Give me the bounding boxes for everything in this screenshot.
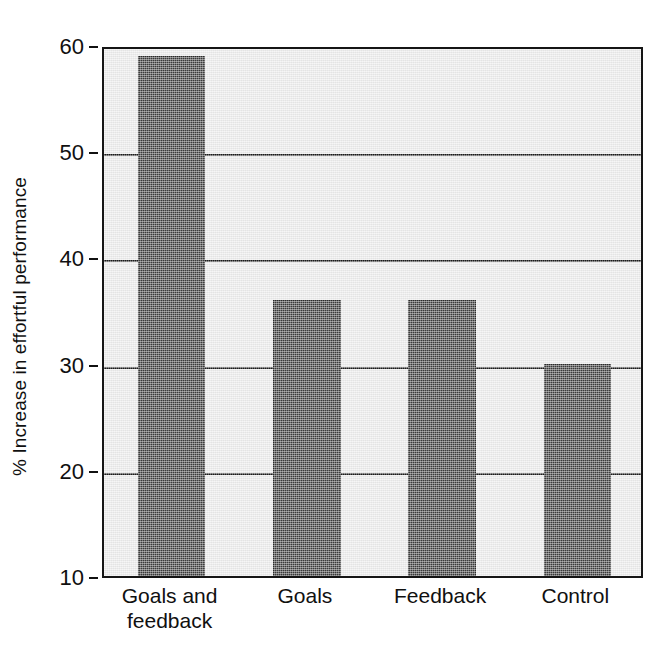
y-tick-mark-10	[89, 577, 98, 579]
bar-goals[interactable]	[273, 300, 341, 576]
y-tick-mark-20	[89, 471, 98, 473]
plot-area	[102, 47, 643, 578]
bar-chart-figure: % Increase in effortful performance 1020…	[0, 0, 670, 653]
x-axis-label-control: Control	[508, 584, 643, 609]
x-axis-category-labels: Goals andfeedbackGoalsFeedbackControl	[102, 584, 643, 644]
x-axis-label-feedback: Feedback	[373, 584, 508, 609]
bar-feedback[interactable]	[408, 300, 476, 576]
x-label-line: Feedback	[394, 584, 486, 607]
x-label-line: Goals and	[122, 584, 218, 607]
x-label-line: Control	[542, 584, 610, 607]
x-axis-label-goals-and-feedback: Goals andfeedback	[102, 584, 237, 634]
bar-control[interactable]	[544, 364, 612, 576]
bar-goals-and-feedback[interactable]	[138, 56, 206, 576]
x-label-line: feedback	[102, 609, 237, 634]
y-axis-tick-labels: 102030405060	[46, 0, 98, 653]
y-tick-mark-60	[89, 46, 98, 48]
y-tick-mark-50	[89, 152, 98, 154]
y-axis-title: % Increase in effortful performance	[0, 0, 40, 653]
y-tick-mark-30	[89, 365, 98, 367]
x-label-line: Goals	[277, 584, 332, 607]
y-tick-mark-40	[89, 258, 98, 260]
x-axis-label-goals: Goals	[237, 584, 372, 609]
